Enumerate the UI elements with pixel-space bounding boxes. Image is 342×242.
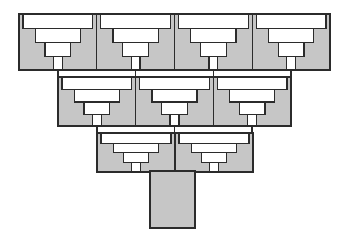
module-1-4-bar-narrow[interactable] (278, 43, 304, 57)
module-1-2-bar-medium[interactable] (113, 29, 158, 43)
module-1-1-bar-stem[interactable] (53, 57, 62, 70)
module-1-4[interactable] (252, 14, 330, 70)
module-2-3-bar-stem[interactable] (248, 114, 257, 126)
level-1-group (19, 14, 330, 70)
module-3-2-bar-narrow[interactable] (201, 153, 227, 163)
module-2-1[interactable] (58, 77, 136, 126)
trunk-group (150, 171, 195, 228)
level-2-group (58, 77, 291, 126)
module-1-2[interactable] (97, 14, 175, 70)
module-2-2[interactable] (136, 77, 214, 126)
module-2-3-bar-medium[interactable] (230, 90, 275, 102)
module-2-1-bar-stem[interactable] (92, 114, 101, 126)
module-3-1-bar-medium[interactable] (113, 143, 158, 153)
module-3-2-bar-wide[interactable] (179, 133, 249, 143)
module-1-1-bar-medium[interactable] (35, 29, 80, 43)
module-3-2-bar-stem[interactable] (210, 163, 219, 172)
module-1-1-bar-narrow[interactable] (45, 43, 71, 57)
module-2-3-bar-narrow[interactable] (239, 102, 265, 114)
module-1-2-bar-narrow[interactable] (123, 43, 149, 57)
module-2-1-bar-narrow[interactable] (84, 102, 110, 114)
module-1-4-bar-wide[interactable] (256, 14, 326, 29)
module-1-2-bar-stem[interactable] (131, 57, 140, 70)
module-2-3[interactable] (213, 77, 291, 126)
module-1-1-bar-wide[interactable] (23, 14, 93, 29)
module-1-3-bar-narrow[interactable] (201, 43, 227, 57)
module-2-2-bar-narrow[interactable] (162, 102, 188, 114)
module-1-3[interactable] (175, 14, 253, 70)
module-1-3-bar-stem[interactable] (209, 57, 218, 70)
module-3-1-bar-narrow[interactable] (123, 153, 149, 163)
module-3-1-bar-stem[interactable] (132, 163, 141, 172)
module-2-2-bar-medium[interactable] (152, 90, 197, 102)
diagram-root: Hierarchical Funnel Tree Diagram Inverte… (0, 0, 342, 242)
level-3-group (97, 133, 253, 172)
module-3-2-bar-medium[interactable] (191, 143, 236, 153)
funnel-tree-diagram: Hierarchical Funnel Tree Diagram Inverte… (0, 0, 342, 242)
module-2-2-bar-wide[interactable] (140, 77, 210, 90)
module-1-1[interactable] (19, 14, 97, 70)
module-1-4-bar-stem[interactable] (287, 57, 296, 70)
trunk-block[interactable] (150, 171, 195, 228)
module-2-2-bar-stem[interactable] (170, 114, 179, 126)
module-1-4-bar-medium[interactable] (269, 29, 314, 43)
module-2-1-bar-medium[interactable] (74, 90, 119, 102)
module-1-3-bar-medium[interactable] (191, 29, 236, 43)
module-2-1-bar-wide[interactable] (62, 77, 132, 90)
module-3-1[interactable] (97, 133, 175, 172)
module-3-2[interactable] (175, 133, 253, 172)
module-2-3-bar-wide[interactable] (217, 77, 287, 90)
module-1-3-bar-wide[interactable] (179, 14, 249, 29)
module-3-1-bar-wide[interactable] (101, 133, 171, 143)
module-1-2-bar-wide[interactable] (101, 14, 171, 29)
